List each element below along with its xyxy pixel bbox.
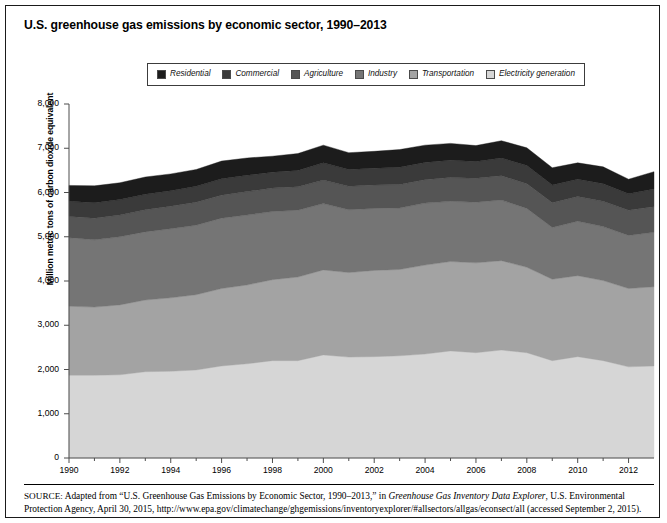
y-axis-tick-label: 2,000 bbox=[17, 364, 59, 374]
x-axis-tick-label: 1990 bbox=[49, 465, 89, 475]
source-divider bbox=[24, 484, 654, 485]
x-axis-tick-label: 1994 bbox=[151, 465, 191, 475]
x-axis-tick-label: 2004 bbox=[405, 465, 445, 475]
y-axis-tick-label: 6,000 bbox=[17, 187, 59, 197]
x-axis-tick-label: 1992 bbox=[100, 465, 140, 475]
x-axis-tick-label: 2010 bbox=[558, 465, 598, 475]
x-axis-tick-label: 1998 bbox=[252, 465, 292, 475]
x-axis-tick-label: 2000 bbox=[303, 465, 343, 475]
x-axis-tick-label: 2008 bbox=[507, 465, 547, 475]
figure-frame: U.S. greenhouse gas emissions by economi… bbox=[5, 5, 660, 518]
x-axis-tick-label: 1996 bbox=[202, 465, 242, 475]
figure-container: U.S. greenhouse gas emissions by economi… bbox=[0, 0, 667, 523]
x-axis-tick-label: 2002 bbox=[354, 465, 394, 475]
x-axis-tick-label: 2006 bbox=[456, 465, 496, 475]
chart-plot-area: Million metric tons of carbon dioxide eq… bbox=[6, 6, 661, 519]
x-axis-tick-label: 2012 bbox=[609, 465, 649, 475]
source-note: SOURCE: Adapted from “U.S. Greenhouse Ga… bbox=[24, 490, 654, 515]
y-axis-tick-label: 4,000 bbox=[17, 275, 59, 285]
stacked-area-chart bbox=[6, 6, 661, 519]
y-axis-tick-label: 1,000 bbox=[17, 408, 59, 418]
source-publication-title: Greenhouse Gas Inventory Data Explorer bbox=[388, 491, 545, 501]
y-axis-tick-label: 5,000 bbox=[17, 231, 59, 241]
y-axis-tick-label: 7,000 bbox=[17, 142, 59, 152]
y-axis-tick-label: 8,000 bbox=[17, 98, 59, 108]
y-axis-tick-label: 0 bbox=[17, 452, 59, 462]
source-text-a: Adapted from “U.S. Greenhouse Gas Emissi… bbox=[63, 491, 389, 501]
source-prefix: SOURCE: bbox=[24, 491, 63, 501]
y-axis-tick-label: 3,000 bbox=[17, 319, 59, 329]
